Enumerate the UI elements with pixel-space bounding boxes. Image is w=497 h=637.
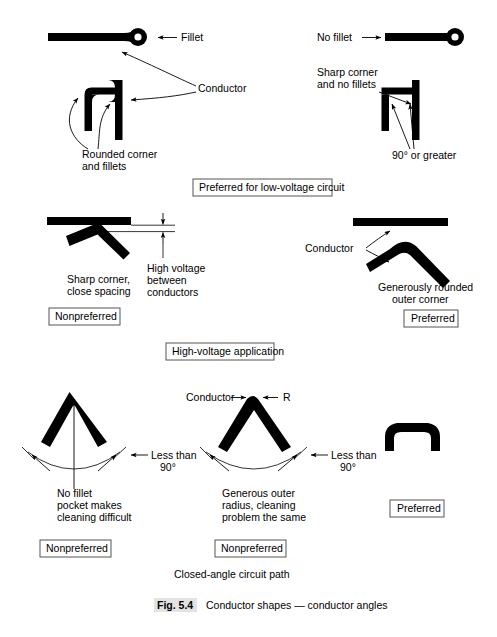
upper-conductor-bar <box>47 217 131 225</box>
badge-preferred-bottom-right: Preferred <box>390 500 444 517</box>
label-sharp-corner-line2: and no fillets <box>317 78 376 90</box>
badge-preferred-middle-label: Preferred <box>411 312 455 324</box>
badge-nonpreferred-middle-label: Nonpreferred <box>55 310 117 322</box>
badge-high-voltage-application-label: High-voltage application <box>172 345 284 357</box>
conductor-sharp-corner-shape <box>382 80 420 140</box>
badge-preferred-bottom-right-label: Preferred <box>397 502 441 514</box>
label-less-than-90-left-line2: 90° <box>160 461 176 473</box>
badge-nonpreferred-bottom-middle-label: Nonpreferred <box>221 542 283 554</box>
badge-nonpreferred-bottom-left-label: Nonpreferred <box>46 542 108 554</box>
label-less-than-90-left-line1: Less than <box>151 449 197 461</box>
label-high-voltage-line2: between <box>147 274 187 286</box>
middle-left-figure: Sharp corner, close spacing High voltage… <box>47 213 206 325</box>
label-generously-rounded-line2: outer corner <box>392 293 449 305</box>
conductor-leader-bar <box>366 231 390 248</box>
label-no-fillet: No fillet <box>317 31 352 43</box>
rounded-leader-right <box>98 104 110 149</box>
label-less-than-90-middle-line2: 90° <box>340 461 356 473</box>
angle-arc-middle <box>206 452 301 469</box>
label-sharp-corner-line1: Sharp corner <box>317 66 378 78</box>
label-no-fillet-note-line1: No fillet <box>57 487 92 499</box>
angle-ext-right <box>113 447 126 459</box>
bottom-right-figure: Preferred <box>385 423 444 517</box>
conductor-trace-with-fillet <box>48 28 147 46</box>
badge-nonpreferred-middle: Nonpreferred <box>49 308 120 325</box>
label-radius-r: R <box>283 391 291 403</box>
label-sharp-close-line2: close spacing <box>67 285 131 297</box>
figure-caption-text: Conductor shapes — conductor angles <box>206 599 388 611</box>
label-fillet: Fillet <box>181 31 203 43</box>
label-generous-note-line3: problem the same <box>222 511 306 523</box>
label-generous-note-line2: radius, cleaning <box>222 499 296 511</box>
top-right-figure: No fillet Sharp corner and no fillets 90… <box>317 28 464 161</box>
figure-number: Fig. 5.4 <box>157 599 193 611</box>
badge-nonpreferred-bottom-middle: Nonpreferred <box>215 540 286 557</box>
conductor-trace-no-fillet <box>385 28 464 46</box>
preferred-rounded-shape <box>385 423 440 451</box>
label-conductor-middle-right: Conductor <box>305 242 354 254</box>
label-no-fillet-note-line2: pocket makes <box>57 499 122 511</box>
conductor-leader-to-trace <box>122 52 196 86</box>
angle-ext-middle-left <box>200 447 212 459</box>
middle-right-figure: Conductor Generously rounded outer corne… <box>305 218 473 327</box>
label-sharp-close-line1: Sharp corner, <box>67 273 130 285</box>
upper-conductor-bar-right <box>353 218 448 226</box>
label-closed-angle-circuit-path: Closed-angle circuit path <box>174 568 290 580</box>
label-no-fillet-note-line3: cleaning difficult <box>57 511 132 523</box>
badge-preferred-low-voltage: Preferred for low-voltage circuit <box>193 179 344 196</box>
label-rounded-corner-line1: Rounded corner <box>82 148 158 160</box>
conductor-rounded-corner-shape <box>85 80 123 140</box>
label-high-voltage-line1: High voltage <box>147 262 206 274</box>
sharp-corner-v-conductor <box>66 223 130 260</box>
badge-preferred-low-voltage-label: Preferred for low-voltage circuit <box>199 181 344 193</box>
badge-preferred-middle: Preferred <box>404 310 458 327</box>
label-conductor-top-left: Conductor <box>198 82 247 94</box>
label-high-voltage-line3: conductors <box>147 286 198 298</box>
angle-leader-left <box>392 104 410 149</box>
bottom-left-figure: Less than 90° No fillet pocket makes cle… <box>22 392 197 557</box>
label-generous-note-line1: Generous outer <box>222 487 295 499</box>
angle-ext-middle-right <box>294 447 307 459</box>
angle-ext-left <box>22 447 34 459</box>
label-rounded-corner-line2: and fillets <box>82 160 126 172</box>
badge-nonpreferred-bottom-left: Nonpreferred <box>40 540 111 557</box>
top-left-figure: Fillet Conductor Rounded corner and fill… <box>48 28 247 172</box>
label-less-than-90-middle-line1: Less than <box>331 449 377 461</box>
badge-high-voltage-application: High-voltage application <box>166 343 284 360</box>
label-conductor-bottom-middle: Conductor <box>186 391 235 403</box>
figure-caption: Fig. 5.4 Conductor shapes — conductor an… <box>154 598 388 612</box>
label-generously-rounded-line1: Generously rounded <box>378 281 473 293</box>
conductor-shapes-diagram: Fillet Conductor Rounded corner and fill… <box>0 0 497 637</box>
conductor-leader-to-shape <box>131 92 196 100</box>
figure-container: Fillet Conductor Rounded corner and fill… <box>0 0 497 637</box>
rounded-apex-chevron-middle <box>218 396 291 452</box>
label-90-or-greater: 90° or greater <box>392 149 457 161</box>
bottom-middle-figure: Conductor R Less than 90° Generous outer… <box>186 391 377 557</box>
